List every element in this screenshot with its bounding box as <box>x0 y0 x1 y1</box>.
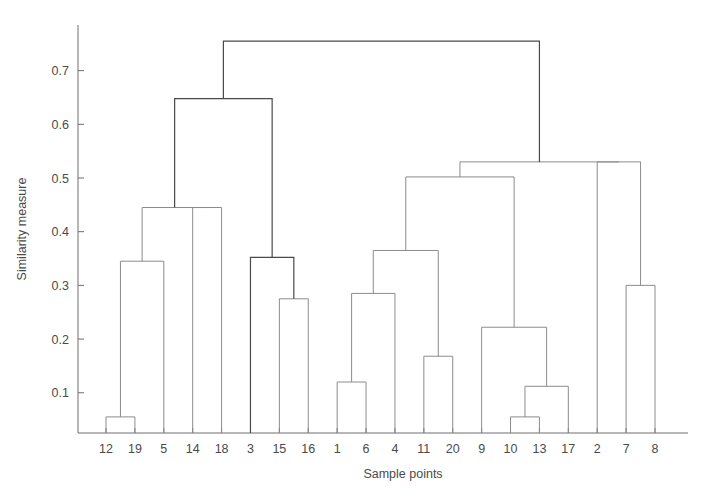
leaf-label: 1 <box>334 442 341 456</box>
dendrogram-plot: 0.10.20.30.40.50.60.71219514183151616411… <box>0 0 710 500</box>
leaf-label: 13 <box>532 442 546 456</box>
leaf-label: 4 <box>391 442 398 456</box>
y-tick-label: 0.6 <box>52 118 69 132</box>
leaf-label: 11 <box>417 442 430 456</box>
dendrogram-link <box>223 41 539 162</box>
dendrogram-link <box>337 382 366 433</box>
leaf-label: 15 <box>272 442 286 456</box>
leaf-label: 20 <box>446 442 460 456</box>
dendrogram-link <box>175 99 273 258</box>
dendrogram-figure: 0.10.20.30.40.50.60.71219514183151616411… <box>0 0 710 500</box>
leaf-label: 8 <box>652 442 659 456</box>
leaf-label: 12 <box>99 442 113 456</box>
leaf-label: 5 <box>160 442 167 456</box>
leaf-label: 10 <box>504 442 518 456</box>
y-tick-label: 0.7 <box>52 64 69 78</box>
leaf-label: 3 <box>247 442 254 456</box>
leaf-label: 17 <box>561 442 575 456</box>
leaf-label: 9 <box>478 442 485 456</box>
y-tick-label: 0.1 <box>52 386 69 400</box>
y-axis-title: Similarity measure <box>15 178 29 281</box>
leaf-label: 7 <box>623 442 630 456</box>
dendrogram-link <box>106 417 135 433</box>
leaf-label: 16 <box>301 442 315 456</box>
dendrogram-link <box>406 177 514 327</box>
dendrogram-link <box>525 386 568 433</box>
leaf-label: 6 <box>363 442 370 456</box>
dendrogram-link <box>120 261 163 433</box>
dendrogram-link <box>511 417 540 433</box>
dendrogram-link <box>597 162 640 433</box>
leaf-label: 2 <box>594 442 601 456</box>
dendrogram-link <box>352 293 395 433</box>
dendrogram-link <box>626 285 655 433</box>
dendrogram-link <box>460 162 619 177</box>
leaf-label: 14 <box>186 442 200 456</box>
dendrogram-link <box>424 356 453 433</box>
y-tick-label: 0.5 <box>52 172 69 186</box>
leaf-label: 19 <box>128 442 142 456</box>
dendrogram-link <box>142 208 207 262</box>
x-axis-title: Sample points <box>363 467 442 481</box>
dendrogram-link <box>279 299 308 433</box>
y-tick-label: 0.3 <box>52 279 69 293</box>
y-tick-label: 0.2 <box>52 333 69 347</box>
leaf-label: 18 <box>215 442 229 456</box>
y-tick-label: 0.4 <box>52 225 69 239</box>
axis-group: 0.10.20.30.40.50.60.71219514183151616411… <box>52 25 688 456</box>
dendrogram-links <box>106 41 655 433</box>
dendrogram-link <box>373 250 438 356</box>
dendrogram-link <box>193 208 222 433</box>
dendrogram-link <box>250 257 293 433</box>
